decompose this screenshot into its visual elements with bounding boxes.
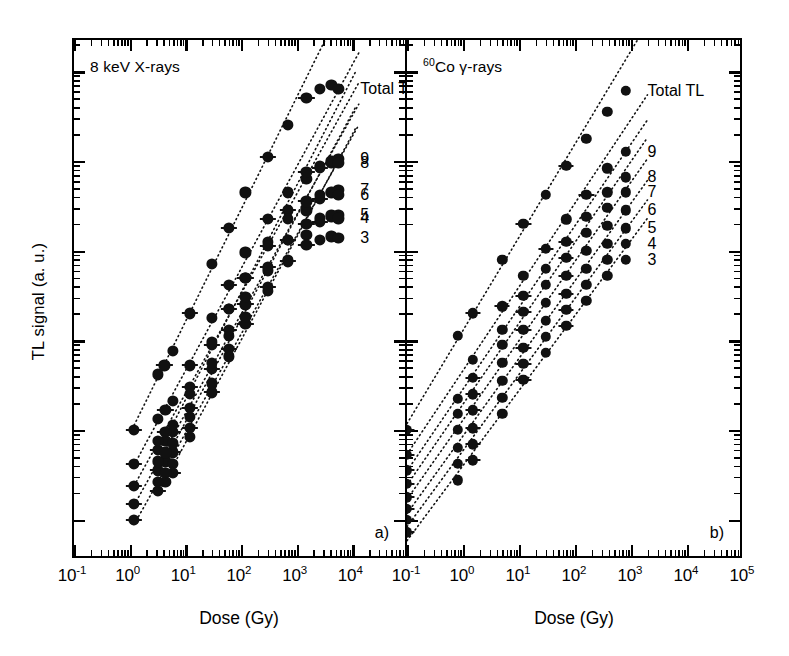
y-axis-minor-tick — [407, 259, 413, 261]
x-axis-minor-tick — [516, 550, 518, 556]
x-axis-major-tick — [297, 40, 299, 51]
x-axis-minor-tick — [424, 40, 426, 46]
x-axis-major-tick — [185, 40, 187, 51]
x-tick-mantissa: 10 — [227, 566, 246, 585]
x-axis-major-tick — [297, 545, 299, 556]
x-tick-exponent: 3 — [301, 564, 307, 576]
x-tick-mantissa: 10 — [115, 566, 134, 585]
x-axis-major-tick — [463, 40, 465, 51]
x-axis-minor-tick — [497, 550, 499, 556]
y-axis-major-tick — [729, 161, 740, 163]
y-axis-minor-tick — [399, 107, 405, 109]
x-axis-minor-tick — [212, 550, 214, 556]
x-axis-minor-tick — [665, 550, 667, 556]
y-axis-minor-tick — [74, 259, 80, 261]
x-axis-tick-label: 103 — [282, 564, 307, 586]
x-axis-minor-tick — [330, 40, 332, 46]
y-axis-major-tick — [394, 161, 405, 163]
y-axis-minor-tick — [74, 208, 80, 210]
x-tick-exponent: -1 — [410, 564, 420, 576]
x-tick-mantissa: 10 — [618, 566, 637, 585]
y-axis-minor-tick — [734, 477, 740, 479]
x-axis-minor-tick — [454, 550, 456, 556]
y-axis-major-tick — [394, 430, 405, 432]
x-axis-minor-tick — [626, 40, 628, 46]
x-axis-minor-tick — [232, 550, 234, 556]
x-axis-minor-tick — [451, 40, 453, 46]
x-axis-minor-tick — [658, 40, 660, 46]
curve-label: 3 — [360, 229, 369, 247]
x-axis-minor-tick — [280, 550, 282, 556]
panel-a: Total TL9876543 8 keV X-rays a) — [72, 38, 406, 558]
x-axis-minor-tick — [288, 40, 290, 46]
plot-area-b: Total TL9876543 — [407, 40, 740, 556]
y-axis-minor-tick — [734, 165, 740, 167]
y-axis-minor-tick — [399, 118, 405, 120]
y-axis-minor-tick — [407, 255, 413, 257]
y-axis-minor-tick — [407, 75, 413, 77]
x-axis-minor-tick — [336, 550, 338, 556]
x-axis-minor-tick — [740, 40, 742, 46]
x-axis-minor-tick — [284, 550, 286, 556]
y-axis-minor-tick — [734, 457, 740, 459]
x-axis-minor-tick — [734, 550, 736, 556]
x-axis-minor-tick — [163, 40, 165, 46]
y-axis-minor-tick — [734, 181, 740, 183]
x-axis-minor-tick — [224, 550, 226, 556]
x-axis-minor-tick — [127, 550, 129, 556]
x-tick-mantissa: 10 — [282, 566, 301, 585]
y-axis-minor-tick — [407, 439, 413, 441]
x-axis-tick-label: 103 — [618, 564, 643, 586]
x-axis-minor-tick — [177, 550, 179, 556]
x-axis-minor-tick — [678, 40, 680, 46]
y-axis-minor-tick — [74, 457, 80, 459]
y-axis-minor-tick — [74, 255, 80, 257]
y-axis-minor-tick — [407, 360, 413, 362]
y-axis-minor-tick — [74, 403, 80, 405]
y-axis-major-tick — [74, 340, 85, 342]
panel-a-annotation: 8 keV X-rays — [90, 58, 180, 76]
figure-root: TL signal (a. u.) Total TL9876543 8 keV … — [0, 0, 789, 656]
x-axis-minor-tick — [91, 40, 93, 46]
x-axis-minor-tick — [391, 40, 393, 46]
x-axis-minor-tick — [347, 550, 349, 556]
x-axis-minor-tick — [163, 550, 165, 556]
y-axis-minor-tick — [74, 80, 80, 82]
x-axis-minor-tick — [173, 40, 175, 46]
y-axis-minor-tick — [734, 349, 740, 351]
x-axis-minor-tick — [336, 40, 338, 46]
y-axis-minor-tick — [407, 85, 413, 87]
x-axis-minor-tick — [291, 550, 293, 556]
x-tick-exponent: 4 — [356, 564, 362, 576]
y-axis-minor-tick — [74, 75, 80, 77]
x-axis-minor-tick — [180, 40, 182, 46]
x-axis-minor-tick — [514, 40, 516, 46]
x-axis-minor-tick — [704, 40, 706, 46]
y-axis-major-tick — [407, 71, 418, 73]
x-axis-minor-tick — [566, 40, 568, 46]
x-axis-minor-tick — [622, 550, 624, 556]
x-axis-minor-tick — [124, 40, 126, 46]
y-axis-minor-tick — [399, 493, 405, 495]
x-axis-minor-tick — [648, 550, 650, 556]
y-axis-minor-tick — [407, 354, 413, 356]
y-axis-minor-tick — [74, 376, 80, 378]
panel-a-tag: a) — [375, 524, 389, 542]
x-axis-minor-tick — [446, 40, 448, 46]
y-axis-minor-tick — [734, 75, 740, 77]
x-axis-minor-tick — [626, 550, 628, 556]
y-axis-minor-tick — [734, 188, 740, 190]
x-axis-tick-label: 100 — [115, 564, 140, 586]
x-axis-minor-tick — [451, 550, 453, 556]
y-axis-minor-tick — [734, 493, 740, 495]
x-tick-exponent: 3 — [636, 564, 642, 576]
x-axis-minor-tick — [108, 40, 110, 46]
x-axis-minor-tick — [536, 40, 538, 46]
x-axis-minor-tick — [628, 550, 630, 556]
x-axis-minor-tick — [202, 40, 204, 46]
y-axis-major-tick — [74, 251, 85, 253]
y-axis-minor-tick — [74, 444, 80, 446]
y-axis-minor-tick — [734, 107, 740, 109]
y-axis-minor-tick — [407, 181, 413, 183]
y-axis-minor-tick — [399, 175, 405, 177]
